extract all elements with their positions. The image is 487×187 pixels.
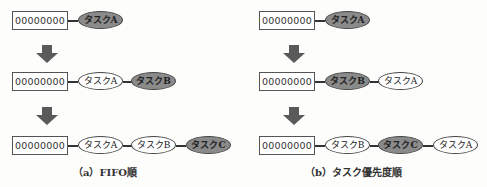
link-line xyxy=(68,20,78,22)
task-node-highlighted: タスクB xyxy=(131,72,176,90)
queue-box: 00000000 xyxy=(12,11,68,30)
queue-box: 00000000 xyxy=(259,72,315,91)
queue-box: 00000000 xyxy=(12,136,68,155)
queue-box: 00000000 xyxy=(12,72,68,91)
task-node-highlighted: タスクB xyxy=(325,72,370,90)
task-node: タスクA xyxy=(78,72,123,90)
task-node: タスクB xyxy=(325,136,370,154)
caption: （b）タスク優先度順 xyxy=(305,164,402,179)
down-arrow-icon xyxy=(36,45,58,63)
task-node: タスクA xyxy=(433,136,478,154)
task-node-highlighted: タスクC xyxy=(186,136,231,154)
task-node-highlighted: タスクC xyxy=(378,136,423,154)
task-node-highlighted: タスクA xyxy=(78,11,123,29)
task-node: タスクA xyxy=(378,72,423,90)
queue-box: 00000000 xyxy=(259,136,315,155)
queue-box: 00000000 xyxy=(259,11,315,30)
link-line xyxy=(315,81,325,83)
link-line xyxy=(315,145,325,147)
link-line xyxy=(176,145,186,147)
task-node: タスクB xyxy=(131,136,176,154)
link-line xyxy=(68,145,78,147)
task-node: タスクA xyxy=(78,136,123,154)
caption: （a）FIFO順 xyxy=(73,164,137,179)
task-node-highlighted: タスクA xyxy=(325,11,370,29)
link-line xyxy=(315,20,325,22)
link-line xyxy=(423,145,433,147)
link-line xyxy=(68,81,78,83)
down-arrow-icon xyxy=(283,107,305,125)
down-arrow-icon xyxy=(283,45,305,63)
down-arrow-icon xyxy=(36,107,58,125)
